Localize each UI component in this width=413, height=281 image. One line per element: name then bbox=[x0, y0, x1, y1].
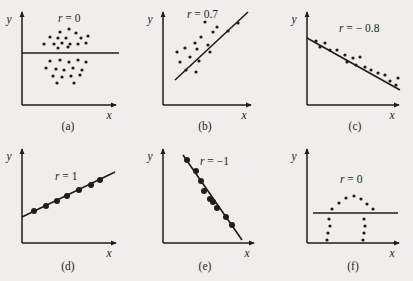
data-point bbox=[369, 68, 372, 71]
x-axis-label: x bbox=[105, 247, 112, 259]
data-point bbox=[48, 35, 51, 38]
data-point bbox=[388, 79, 391, 82]
data-point bbox=[69, 74, 72, 77]
panel-caption: (d) bbox=[61, 260, 75, 273]
data-point bbox=[362, 231, 365, 234]
data-point bbox=[78, 73, 81, 76]
data-points bbox=[325, 194, 374, 241]
data-point bbox=[64, 36, 67, 39]
panel-caption: (f) bbox=[347, 260, 359, 273]
correlation-label: r = 0 bbox=[58, 12, 81, 24]
data-point bbox=[343, 53, 346, 56]
panel-caption: (c) bbox=[349, 120, 362, 133]
data-point bbox=[80, 68, 83, 71]
data-point bbox=[208, 50, 211, 53]
data-point bbox=[344, 196, 347, 199]
panel-caption: (b) bbox=[198, 120, 212, 133]
data-point bbox=[325, 238, 328, 241]
data-point bbox=[363, 224, 366, 227]
correlation-label: r = −1 bbox=[200, 155, 229, 167]
data-point bbox=[60, 75, 63, 78]
x-axis-label: x bbox=[105, 109, 112, 121]
data-point bbox=[352, 194, 355, 197]
data-point bbox=[330, 207, 333, 210]
panel-f: yxr = 0(f) bbox=[290, 149, 399, 273]
y-axis-label: y bbox=[5, 150, 12, 163]
data-point bbox=[183, 46, 186, 49]
data-point bbox=[88, 182, 94, 188]
data-point bbox=[214, 205, 220, 211]
data-point bbox=[67, 27, 70, 30]
y-axis-label: y bbox=[290, 13, 297, 26]
panel-d: yxr = 1(d) bbox=[5, 149, 116, 273]
correlation-label: r = − 0.8 bbox=[339, 22, 380, 34]
r-symbol: r bbox=[200, 155, 205, 167]
data-point bbox=[197, 59, 200, 62]
panels-group: yxr = 0(a)yxr = 0.7(b)yxr = − 0.8(c)yxr … bbox=[5, 8, 400, 273]
x-axis-label: x bbox=[388, 109, 395, 121]
data-point bbox=[86, 34, 89, 37]
data-point bbox=[64, 193, 70, 199]
data-point bbox=[76, 42, 79, 45]
data-point bbox=[335, 48, 338, 51]
y-axis-label: y bbox=[5, 13, 12, 26]
data-point bbox=[363, 65, 366, 68]
data-point bbox=[327, 217, 330, 220]
data-point bbox=[328, 48, 331, 51]
panel-a: yxr = 0(a) bbox=[5, 12, 119, 133]
y-axis-label: y bbox=[146, 13, 153, 26]
r-symbol: r bbox=[55, 170, 60, 182]
data-point bbox=[199, 35, 202, 38]
data-point bbox=[43, 203, 49, 209]
correlation-label: r = 0 bbox=[340, 173, 363, 185]
data-point bbox=[56, 36, 59, 39]
data-point bbox=[226, 29, 229, 32]
data-point bbox=[193, 168, 199, 174]
data-point bbox=[203, 20, 206, 23]
data-point bbox=[362, 217, 365, 220]
data-point bbox=[211, 30, 214, 33]
r-symbol: r bbox=[187, 8, 192, 20]
data-point bbox=[351, 56, 354, 59]
data-point bbox=[195, 47, 198, 50]
data-point bbox=[54, 198, 60, 204]
data-point bbox=[68, 42, 71, 45]
data-point bbox=[326, 231, 329, 234]
data-point bbox=[323, 41, 326, 44]
data-point bbox=[314, 39, 317, 42]
correlation-label: r = 0.7 bbox=[187, 8, 218, 20]
data-points bbox=[314, 39, 399, 86]
x-axis-label: x bbox=[243, 247, 250, 259]
data-point bbox=[31, 208, 37, 214]
data-point bbox=[376, 71, 379, 74]
data-point bbox=[210, 199, 216, 205]
data-point bbox=[371, 207, 374, 210]
data-point bbox=[60, 41, 63, 44]
panel-e: yxr = −1(e) bbox=[146, 149, 254, 273]
data-point bbox=[74, 31, 77, 34]
data-point bbox=[84, 41, 87, 44]
x-axis-label: x bbox=[240, 109, 247, 121]
r-symbol: r bbox=[340, 173, 345, 185]
data-point bbox=[354, 63, 357, 66]
data-points bbox=[31, 177, 103, 214]
data-point bbox=[76, 58, 79, 61]
data-point bbox=[178, 60, 181, 63]
data-point bbox=[42, 42, 45, 45]
data-point bbox=[318, 45, 321, 48]
data-point bbox=[84, 60, 87, 63]
data-point bbox=[54, 67, 57, 70]
data-point bbox=[72, 81, 75, 84]
data-point bbox=[184, 157, 190, 163]
data-points bbox=[42, 27, 89, 84]
x-axis-label: x bbox=[388, 247, 395, 259]
y-axis-label: y bbox=[146, 150, 153, 163]
data-point bbox=[365, 202, 368, 205]
data-point bbox=[76, 187, 82, 193]
data-point bbox=[394, 83, 397, 86]
data-point bbox=[56, 46, 59, 49]
data-point bbox=[361, 238, 364, 241]
data-point bbox=[223, 214, 229, 220]
y-axis-label: y bbox=[290, 150, 297, 163]
data-point bbox=[206, 43, 209, 46]
